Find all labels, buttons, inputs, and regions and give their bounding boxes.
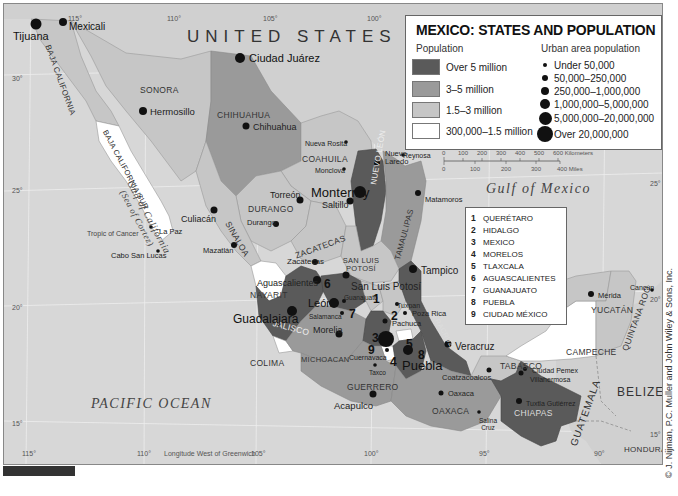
legend-urban-over-20m: Over 20,000,000 xyxy=(536,128,629,140)
city-durango: Durango xyxy=(247,219,276,227)
city-mexicali: Mexicali xyxy=(69,22,105,32)
tick-left-25: 25° xyxy=(12,187,23,194)
label-honduras: HONDURAS xyxy=(624,446,663,454)
key-row: 4MORELOS xyxy=(471,249,523,259)
population-heading: Population xyxy=(416,43,463,54)
label-state-oaxaca: OAXACA xyxy=(432,407,469,416)
city-veracruz: Veracruz xyxy=(455,342,494,352)
tick-right-20: 20° xyxy=(650,296,661,303)
label-state-nayarit: NAYARIT xyxy=(250,291,288,300)
city-zacatecas: Zacatecas xyxy=(287,258,324,266)
label-state-campeche: CAMPECHE xyxy=(566,348,617,357)
city-mazatlan: Mazatlán xyxy=(203,247,233,255)
key-row: 2HIDALGO xyxy=(471,225,519,235)
map-legend: MEXICO: STATES AND POPULATION Population… xyxy=(405,15,662,150)
label-state-chihuahua: CHIHUAHUA xyxy=(217,111,270,120)
scale-mi-400: 400 Miles xyxy=(557,166,583,172)
tick-right-25: 25° xyxy=(650,180,661,187)
city-ciudad-pemex: Ciudad Pemex xyxy=(532,367,578,374)
legend-pop-label: 3–5 million xyxy=(446,84,494,95)
city-tuxtla-gutierrez: Tuxtla Gutiérrez xyxy=(526,400,576,407)
city-morelia: Morelia xyxy=(313,326,343,335)
label-state-sonora: SONORA xyxy=(140,86,179,95)
city-merida: Mérida xyxy=(598,292,621,300)
city-torreon: Torreón xyxy=(270,191,301,200)
legend-urban-under-50k: Under 50,000 xyxy=(536,59,615,71)
scale-km-0: 0 xyxy=(442,150,445,156)
key-row: 5TLAXCALA xyxy=(471,261,524,271)
city-salamanca: Salamanca xyxy=(309,314,342,321)
city-aguascalientes: Aguascalientes xyxy=(257,279,318,288)
city-la-paz: La Paz xyxy=(159,228,182,236)
scale-km-300: 300 xyxy=(496,150,506,156)
scale-mi-200: 200 xyxy=(501,166,511,172)
legend-pop-1-5-3m: 1.5–3 million xyxy=(412,102,502,118)
city-san-luis-potosi: San Luis Potosí xyxy=(351,282,421,292)
city-leon: León xyxy=(308,298,332,309)
tick-bottom-115: 115° xyxy=(22,450,36,457)
scale-km-400: 400 xyxy=(515,150,525,156)
scale-mi-300: 300 xyxy=(531,166,541,172)
city-culiacan: Culiacán xyxy=(181,215,216,224)
tick-top-105: 105° xyxy=(263,15,277,22)
city-acapulco: Acapulco xyxy=(334,401,373,411)
numbered-states-key: 1QUERÉTARO 2HIDALGO 3MEXICO 4MORELOS 5TL… xyxy=(465,207,567,325)
label-belize: BELIZE xyxy=(617,386,663,398)
city-pachuca: Pachuca xyxy=(392,320,421,328)
legend-urban-250k-1m: 250,000–1,000,000 xyxy=(536,85,640,97)
legend-urban-label: 5,000,000–20,000,000 xyxy=(554,113,654,124)
city-salina-cruz: Salina Cruz xyxy=(476,418,500,431)
city-coatzacoalcos: Coatzacoalcos xyxy=(442,374,491,382)
tick-top-115: 115° xyxy=(68,15,82,22)
city-puebla: Puebla xyxy=(402,359,442,372)
scale-mi-0: 0 xyxy=(442,166,445,172)
label-state-michoacan: MICHOACAN xyxy=(301,356,350,364)
city-cancun: Cancún xyxy=(630,284,654,291)
dot-icon xyxy=(542,75,548,81)
footer-bar xyxy=(3,466,75,476)
city-guanajuato: Guanajuato xyxy=(344,295,378,302)
city-monterrey: Monterrey xyxy=(311,186,370,199)
legend-pop-label: Over 5 million xyxy=(446,62,507,73)
scale-km-100: 100 xyxy=(458,150,468,156)
city-oaxaca: Oaxaca xyxy=(448,390,474,398)
city-poza-rica: Poza Rica xyxy=(412,310,446,318)
legend-pop-label: 1.5–3 million xyxy=(446,105,502,116)
dot-icon xyxy=(539,112,552,125)
legend-urban-5m-20m: 5,000,000–20,000,000 xyxy=(536,112,654,124)
city-guadalajara: Guadalajara xyxy=(233,313,298,325)
city-cabo-san-lucas: Cabo San Lucas xyxy=(111,252,166,260)
tick-right-15: 15° xyxy=(650,431,661,438)
legend-pop-3-5m: 3–5 million xyxy=(412,81,494,97)
urban-heading: Urban area population xyxy=(541,43,640,54)
label-state-colima: COLIMA xyxy=(250,359,284,368)
city-tijuana: Tijuana xyxy=(13,31,49,42)
tick-left-20: 20° xyxy=(12,304,23,311)
city-taxco: Taxco xyxy=(369,370,386,377)
label-state-yucatan: YUCATÁN xyxy=(591,306,633,315)
legend-urban-label: 1,000,000–5,000,000 xyxy=(554,99,649,110)
key-row: 6AGUASCALIENTES xyxy=(471,273,555,283)
key-row: 1QUERÉTARO xyxy=(471,213,533,223)
legend-urban-1m-5m: 1,000,000–5,000,000 xyxy=(536,98,649,110)
swatch-3-5m xyxy=(412,81,440,97)
city-matamoros: Matamoros xyxy=(425,196,463,204)
swatch-1-5-3m xyxy=(412,102,440,118)
legend-pop-label: 300,000–1.5 million xyxy=(446,126,533,137)
map-title: MEXICO: STATES AND POPULATION xyxy=(416,22,655,38)
label-state-durango: DURANGO xyxy=(248,205,294,214)
city-villahermosa: Villahermosa xyxy=(530,376,570,383)
marker-5: 5 xyxy=(406,338,413,350)
legend-urban-50k-250k: 50,000–250,000 xyxy=(536,72,626,84)
label-state-san-luis-potosi: SAN LUIS POTOSÍ xyxy=(341,257,381,272)
label-tropic-of-cancer: Tropic of Cancer xyxy=(87,230,138,237)
city-tuxpan: Tuxpan xyxy=(397,302,420,309)
tick-bottom-100: 100° xyxy=(364,450,378,457)
city-hermosillo: Hermosillo xyxy=(150,107,195,117)
tick-bottom-90: 90° xyxy=(594,450,605,457)
city-chihuahua: Chihuahua xyxy=(253,123,297,132)
scale-km-500: 500 xyxy=(534,150,544,156)
longitude-note: Longitude West of Greenwich xyxy=(164,450,256,457)
swatch-300k-1-5m xyxy=(412,123,440,139)
key-row: 3MEXICO xyxy=(471,237,515,247)
